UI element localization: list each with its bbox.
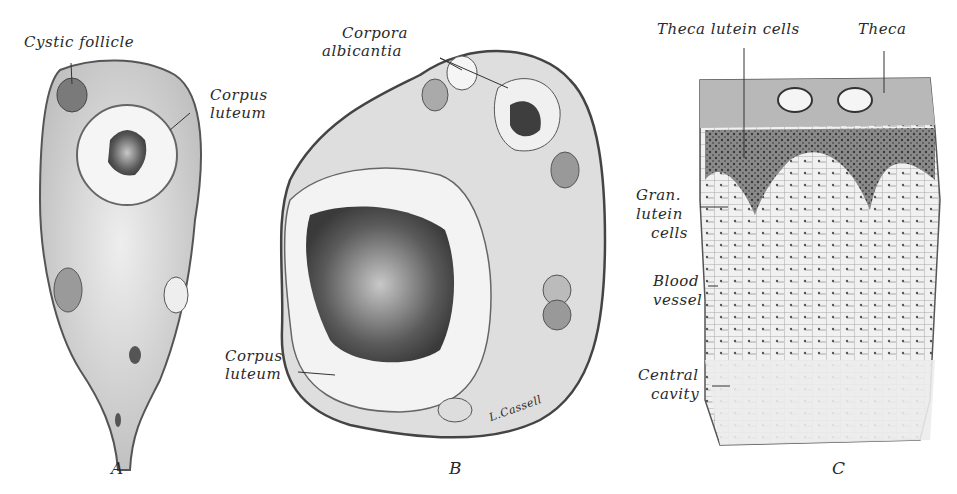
label-corpus-luteum-b-line2: luteum [225,365,281,383]
label-central-cavity-line1: Central [638,366,698,384]
panel-letter-a: A [111,458,123,478]
label-blood-vessel-line1: Blood [653,272,699,290]
label-corpus-luteum-a-line2: luteum [210,104,266,122]
label-corpus-luteum-a-line1: Corpus [210,86,268,104]
label-gran-lutein-cells-line3: cells [651,224,688,242]
label-theca-lutein-cells: Theca lutein cells [657,20,800,38]
label-corpus-luteum-b-line1: Corpus [225,347,283,365]
label-gran-lutein-cells-line2: lutein [636,205,683,223]
label-gran-lutein-cells-line1: Gran. [636,186,681,204]
panel-a-ovary [40,60,201,470]
label-theca: Theca [858,20,906,38]
label-cystic-follicle: Cystic follicle [24,33,134,51]
panel-letter-b: B [449,458,462,478]
label-corpora-albicantia-line1: Corpora [342,24,408,42]
panel-c-tissue-section [700,78,940,445]
panel-letter-c: C [832,458,845,478]
label-blood-vessel-line2: vessel [653,291,702,309]
label-corpora-albicantia-line2: albicantia [322,42,402,60]
label-central-cavity-line2: cavity [651,385,699,403]
illustration-canvas [0,0,957,494]
panel-b-ovary [281,51,605,437]
